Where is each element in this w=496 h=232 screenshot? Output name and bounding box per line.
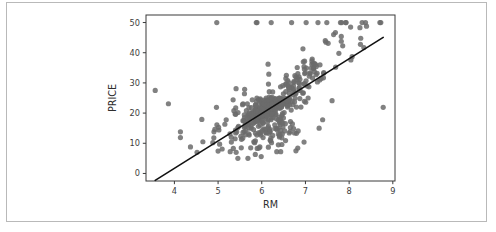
data-point [234, 150, 239, 155]
data-point [364, 24, 369, 29]
y-axis-title: PRICE [107, 84, 118, 112]
x-tick-label: 6 [259, 186, 264, 196]
data-point [276, 117, 281, 122]
data-point [301, 139, 306, 144]
data-point [267, 127, 272, 132]
data-point [260, 120, 265, 125]
data-point [339, 39, 344, 44]
data-point [153, 88, 158, 93]
data-point [178, 129, 183, 134]
data-point [286, 85, 291, 90]
data-point [224, 117, 229, 122]
data-point [200, 139, 205, 144]
data-point [358, 42, 363, 47]
data-point [302, 71, 307, 76]
data-point [357, 25, 362, 30]
data-point [273, 107, 278, 112]
data-point [214, 105, 219, 110]
data-point [290, 121, 295, 126]
data-point [317, 126, 322, 131]
data-point [360, 20, 365, 25]
x-tick-label: 5 [215, 186, 220, 196]
data-point [258, 130, 263, 135]
data-point [166, 101, 171, 106]
data-point [214, 122, 219, 127]
data-point [248, 145, 253, 150]
data-point [297, 77, 302, 82]
data-point [222, 122, 227, 127]
data-point [245, 156, 250, 161]
x-axis-title: RM [263, 199, 278, 210]
data-point [242, 87, 247, 92]
data-point [250, 97, 255, 102]
data-point [304, 20, 309, 25]
data-point [295, 146, 300, 151]
data-point [249, 126, 254, 131]
data-point [282, 128, 287, 133]
data-point [348, 24, 353, 29]
data-point [336, 51, 341, 56]
data-point [309, 58, 314, 63]
data-point [307, 74, 312, 79]
data-point [280, 120, 285, 125]
data-point [239, 145, 244, 150]
data-point [381, 105, 386, 110]
data-point [229, 139, 234, 144]
data-point [233, 111, 238, 116]
data-point [199, 117, 204, 122]
data-point [291, 80, 296, 85]
data-point [292, 130, 297, 135]
data-point [256, 146, 261, 151]
data-point [280, 83, 285, 88]
y-tick-label: 20 [130, 108, 140, 118]
data-point [269, 20, 274, 25]
data-point [331, 32, 336, 37]
data-point [266, 72, 271, 77]
data-point [277, 95, 282, 100]
data-point [289, 20, 294, 25]
data-point [266, 82, 271, 87]
y-tick-label: 50 [130, 18, 140, 28]
data-point [340, 43, 345, 48]
data-point [297, 96, 302, 101]
data-point [313, 62, 318, 67]
x-tick-label: 8 [347, 186, 352, 196]
data-point [287, 130, 292, 135]
y-tick-label: 40 [130, 48, 140, 58]
data-point [233, 86, 238, 91]
data-point [247, 110, 252, 115]
data-point [259, 154, 264, 159]
data-point [265, 62, 270, 67]
data-point [301, 59, 306, 64]
data-point [277, 132, 282, 137]
data-point [211, 135, 216, 140]
data-point [294, 104, 299, 109]
screenshot-root: 45678901020304050RMPRICE [0, 0, 496, 232]
data-point [283, 76, 288, 81]
plot-svg: 45678901020304050RMPRICE [103, 7, 403, 212]
data-point [253, 152, 258, 157]
data-point [188, 144, 193, 149]
data-point [270, 89, 275, 94]
data-point [266, 145, 271, 150]
data-point [285, 103, 290, 108]
data-point [281, 91, 286, 96]
data-point [291, 126, 296, 131]
data-point [217, 142, 222, 147]
data-point [235, 156, 240, 161]
data-point [229, 135, 234, 140]
data-point [214, 20, 219, 25]
data-point [301, 64, 306, 69]
data-point [243, 132, 248, 137]
x-tick-label: 7 [303, 186, 308, 196]
data-point [292, 99, 297, 104]
data-point [315, 20, 320, 25]
data-point [329, 98, 334, 103]
data-point [242, 91, 247, 96]
data-point [343, 20, 348, 25]
data-point [339, 34, 344, 39]
data-point [272, 126, 277, 131]
data-point [278, 149, 283, 154]
data-point [320, 117, 325, 122]
x-tick-label: 4 [172, 186, 177, 196]
